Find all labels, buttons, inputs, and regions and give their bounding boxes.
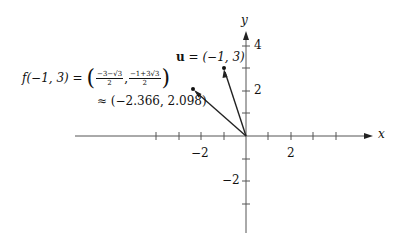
vector-u-value: = (−1, 3) [185, 50, 245, 64]
x-tick-label-2: 2 [287, 146, 295, 160]
fraction-separator: , [124, 71, 128, 85]
y-tick-label-neg2: −2 [222, 173, 240, 187]
y-axis-label: y [241, 13, 248, 27]
f-approx-label: ≈ (−2.366, 2.098) [97, 94, 207, 108]
fraction-2: −1+3√32 [129, 70, 161, 87]
vector-f-point [191, 87, 195, 91]
x-tick-label-neg2: −2 [191, 146, 209, 160]
vector-u-point [222, 66, 226, 70]
vector-u-name: u [176, 50, 185, 64]
f-label-lhs: f(−1, 3) = [22, 71, 86, 85]
coordinate-plane [0, 0, 405, 243]
vector-u-label: u = (−1, 3) [176, 50, 245, 64]
vector-f-label: f(−1, 3) = (−3−√32,−1+3√32) [22, 68, 170, 88]
close-paren: ) [162, 65, 171, 90]
y-tick-label-2: 2 [254, 83, 262, 97]
y-axis-arrow-icon [243, 31, 249, 40]
vector-u-arrowhead-icon [223, 69, 228, 78]
x-axis-arrow-icon [364, 133, 373, 139]
open-paren: ( [86, 65, 95, 90]
y-tick-label-4: 4 [254, 38, 262, 52]
x-axis-label: x [378, 127, 385, 141]
fraction-1: −3−√32 [96, 70, 123, 87]
